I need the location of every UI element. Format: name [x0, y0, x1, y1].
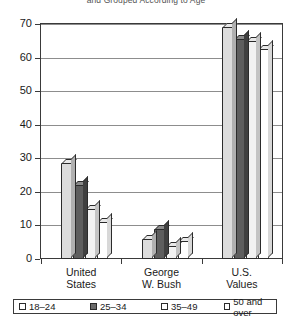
bar-side-face — [83, 176, 88, 258]
x-axis-category-label: GeorgeW. Bush — [117, 266, 207, 290]
y-axis-label: 60 — [0, 52, 32, 63]
legend-item[interactable]: 35–49 — [161, 301, 197, 312]
y-axis-label: 70 — [0, 18, 32, 29]
x-axis-category-line: U.S. — [197, 266, 287, 278]
bar-side-face — [107, 213, 112, 258]
y-axis-label: 10 — [0, 219, 32, 230]
legend-swatch — [90, 303, 97, 310]
bar-group — [142, 24, 190, 259]
x-axis-category-label: UnitedStates — [36, 266, 126, 290]
x-axis-tick — [202, 259, 203, 264]
x-axis-tick — [282, 259, 283, 264]
bar-series-container — [41, 24, 282, 259]
x-axis-category-line: Values — [197, 278, 287, 290]
x-axis-tick — [41, 259, 42, 264]
bar-side-face — [95, 200, 100, 258]
bar-side-face — [152, 230, 157, 258]
legend-label: 25–34 — [100, 301, 126, 312]
bar — [222, 27, 233, 259]
chart-title: and Grouped According to Age — [0, 0, 292, 5]
y-axis-label: 0 — [0, 253, 32, 264]
y-axis-label: 30 — [0, 152, 32, 163]
x-axis-category-line: George — [117, 266, 207, 278]
bar — [61, 163, 72, 259]
legend-label: 18–24 — [29, 301, 55, 312]
x-axis-category-line: States — [36, 278, 126, 290]
y-axis-tick — [35, 259, 40, 260]
bar — [142, 239, 153, 259]
x-axis-category-line: United — [36, 266, 126, 278]
x-axis-category-label: U.S.Values — [197, 266, 287, 290]
y-axis-label: 40 — [0, 119, 32, 130]
legend-swatch — [161, 303, 168, 310]
bar-group — [222, 24, 270, 259]
legend-item[interactable]: 18–24 — [19, 301, 55, 312]
bar-group — [61, 24, 109, 259]
bar-side-face — [71, 154, 76, 258]
bar-side-face — [232, 18, 237, 258]
y-axis-label: 20 — [0, 186, 32, 197]
bar-side-face — [268, 40, 273, 258]
legend-label: 50 and over — [233, 296, 276, 317]
bar-chart: and Grouped According to Age 70605040302… — [0, 0, 292, 317]
legend-swatch — [224, 303, 230, 310]
legend-label: 35–49 — [171, 301, 197, 312]
bar-side-face — [164, 220, 169, 258]
legend-item[interactable]: 50 and over — [224, 296, 276, 317]
x-axis-category-line: W. Bush — [117, 278, 207, 290]
bar-side-face — [244, 30, 249, 258]
legend-item[interactable]: 25–34 — [90, 301, 126, 312]
bar-side-face — [188, 232, 193, 258]
x-axis-tick — [121, 259, 122, 264]
y-axis-label: 50 — [0, 85, 32, 96]
legend-swatch — [19, 303, 26, 310]
chart-legend: 18–2425–3435–4950 and over — [13, 299, 277, 314]
bar-side-face — [256, 32, 261, 258]
